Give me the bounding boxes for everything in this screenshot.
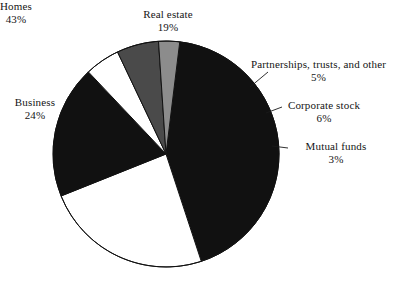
slice-label-real-estate-value: 19% (113, 21, 223, 34)
slice-label-homes: Homes 43% (0, 0, 32, 26)
slice-label-real-estate-name: Real estate (113, 8, 223, 21)
slice-label-corporate-stock-name: Corporate stock (268, 99, 380, 112)
slice-label-partnerships: Partnerships, trusts, and other 5% (241, 58, 396, 84)
slice-label-business-name: Business (4, 96, 66, 109)
slice-label-business: Business 24% (4, 96, 66, 122)
slice-label-partnerships-name: Partnerships, trusts, and other (241, 58, 396, 71)
slice-label-mutual-funds: Mutual funds 3% (286, 140, 386, 166)
slice-label-mutual-funds-name: Mutual funds (286, 140, 386, 153)
slice-label-real-estate: Real estate 19% (113, 8, 223, 34)
slice-label-homes-value: 43% (0, 13, 32, 26)
slice-label-corporate-stock-value: 6% (268, 112, 380, 125)
slice-label-business-value: 24% (4, 109, 66, 122)
slice-label-homes-name: Homes (0, 0, 32, 13)
slice-label-corporate-stock: Corporate stock 6% (268, 99, 380, 125)
slice-label-partnerships-value: 5% (241, 71, 396, 84)
pie-chart: Real estate 19% Partnerships, trusts, an… (0, 0, 396, 297)
slice-label-mutual-funds-value: 3% (286, 153, 386, 166)
